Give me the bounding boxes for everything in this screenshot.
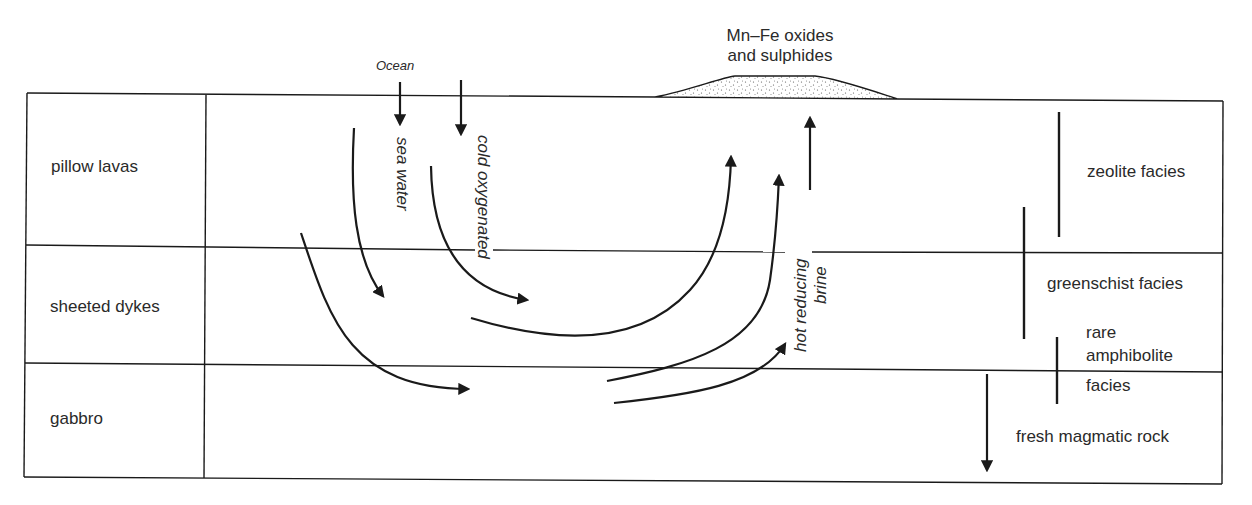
layer-label-sheeted-dykes: sheeted dykes (50, 297, 160, 316)
label-column-divider (204, 95, 206, 478)
layer-label-gabbro: gabbro (50, 409, 103, 428)
sea-water-label: sea water (393, 137, 412, 212)
circulation-flow-arrows (301, 118, 810, 403)
seafloor-line-right (898, 99, 1223, 101)
frame-left-border (24, 93, 27, 477)
hot-reducing-label: hot reducing (791, 258, 810, 352)
seafloor-line-left (27, 93, 655, 97)
flow-arrow-seawater-descent (353, 128, 383, 296)
frame-bottom-border (24, 477, 1222, 484)
layer-grid (24, 93, 1223, 484)
mn-fe-deposit-mound (655, 76, 898, 99)
frame-right-border (1222, 101, 1223, 484)
amphibolite-label-line1: rare (1086, 323, 1116, 342)
boundary-lavas-dykes-right (812, 252, 1223, 253)
greenschist-facies-label: greenschist facies (1047, 274, 1183, 293)
flow-arrow-inner-loop-rise (471, 157, 731, 336)
cold-oxygenated-label: cold oxygenated (474, 135, 493, 259)
amphibolite-label-line3: facies (1086, 376, 1130, 395)
deposit-label-line1: Mn–Fe oxides (727, 26, 834, 45)
layer-label-pillow-lavas: pillow lavas (51, 157, 138, 176)
ocean-label: Ocean (376, 58, 414, 73)
brine-label: brine (811, 266, 830, 304)
hydrothermal-circulation-diagram: Mn–Fe oxides and sulphides Ocean pillow … (0, 0, 1252, 505)
zeolite-facies-label: zeolite facies (1087, 162, 1185, 181)
seawater-inflow-arrows (400, 80, 461, 134)
boundary-lavas-dykes-mid (493, 250, 785, 252)
deposit-label-line2: and sulphides (728, 46, 833, 65)
flow-arrow-outer-loop-rise (607, 176, 779, 381)
amphibolite-label-line2: amphibolite (1086, 346, 1173, 365)
boundary-lavas-dykes-left (26, 245, 475, 250)
fresh-magmatic-rock-label: fresh magmatic rock (1016, 427, 1170, 446)
